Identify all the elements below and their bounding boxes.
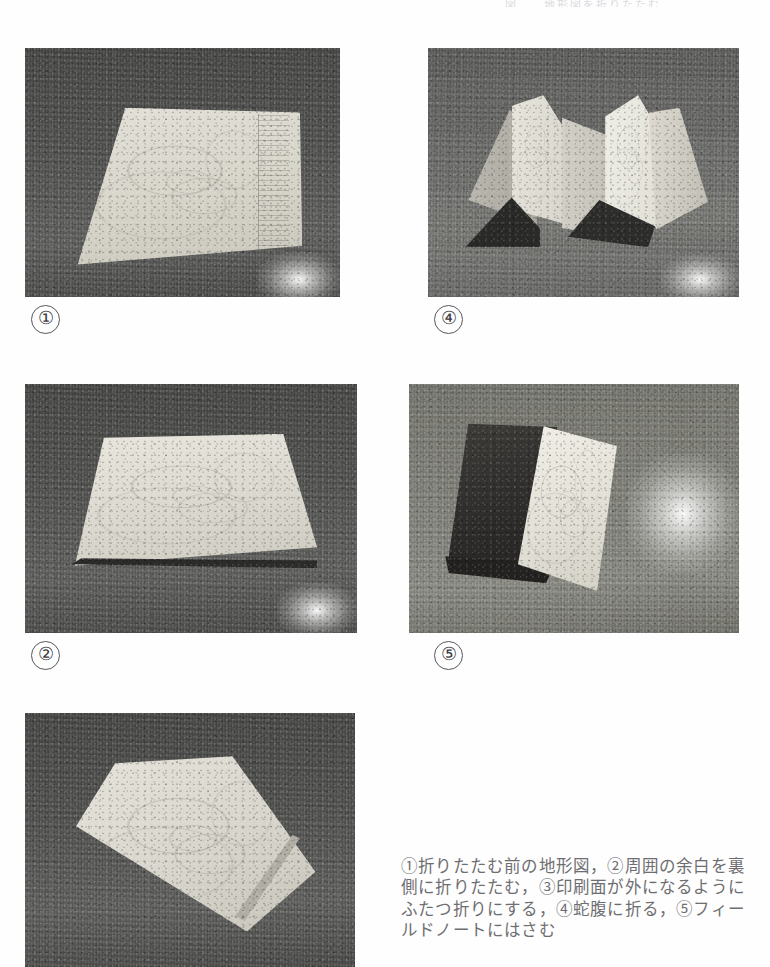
photo-figure-3 [25, 713, 355, 967]
figure-number-5: ⑤ [434, 641, 463, 670]
photo-figure-2 [25, 384, 357, 633]
figure-caption: ①折りたたむ前の地形図，②周囲の余白を裏側に折りたたむ，③印刷面が外になるように… [401, 856, 746, 941]
page-header-fragment: 図 地形図を折りたたむ [505, 0, 755, 7]
figure-number-4: ④ [434, 305, 463, 334]
map-sheet-margins-folded [75, 434, 317, 566]
map-legend-panel [258, 114, 288, 255]
photo-figure-1 [25, 48, 340, 297]
figure-number-1: ① [31, 305, 60, 334]
figure-number-2: ② [31, 641, 60, 670]
figure-page: 図 地形図を折りたたむ ① ④ [0, 0, 770, 967]
photo-figure-4 [428, 48, 739, 297]
map-contour-detail [75, 434, 317, 566]
photo-figure-5 [409, 384, 739, 633]
